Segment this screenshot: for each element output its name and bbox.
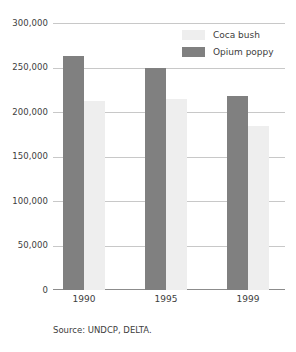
bar-chart-figure: 050,000100,000150,000200,000250,000300,0… bbox=[0, 0, 296, 352]
bar-1995-opium-poppy bbox=[145, 68, 166, 291]
y-tick-label: 0 bbox=[42, 286, 48, 295]
bar-1999-opium-poppy bbox=[227, 96, 248, 290]
bar-1990-coca-bush bbox=[84, 101, 105, 290]
y-tick-label: 300,000 bbox=[12, 19, 48, 28]
plot-area bbox=[53, 23, 285, 290]
bar-1995-coca-bush bbox=[166, 99, 187, 290]
y-tick-label: 250,000 bbox=[12, 63, 48, 72]
x-tick-label-1999: 1999 bbox=[218, 295, 278, 304]
legend-label-opium-poppy: Opium poppy bbox=[213, 48, 274, 57]
bar-1999-coca-bush bbox=[248, 126, 269, 290]
x-tick-label-1995: 1995 bbox=[136, 295, 196, 304]
gridline bbox=[53, 23, 285, 24]
y-tick-label: 50,000 bbox=[18, 241, 48, 250]
legend-swatch-opium-poppy bbox=[182, 47, 205, 57]
x-tick-label-1990: 1990 bbox=[54, 295, 114, 304]
legend-label-coca-bush: Coca bush bbox=[213, 31, 260, 40]
legend-swatch-coca-bush bbox=[182, 30, 205, 40]
legend-item-coca-bush: Coca bush bbox=[182, 28, 290, 42]
x-axis: 199019951999 bbox=[53, 295, 285, 311]
bar-1990-opium-poppy bbox=[63, 56, 84, 290]
y-tick-label: 200,000 bbox=[12, 108, 48, 117]
gridline bbox=[53, 68, 285, 69]
y-tick-label: 150,000 bbox=[12, 152, 48, 161]
y-tick-label: 100,000 bbox=[12, 197, 48, 206]
y-axis: 050,000100,000150,000200,000250,000300,0… bbox=[0, 23, 48, 290]
chart-legend: Coca bush Opium poppy bbox=[182, 28, 290, 62]
legend-item-opium-poppy: Opium poppy bbox=[182, 45, 290, 59]
source-note: Source: UNDCP, DELTA. bbox=[53, 325, 152, 335]
